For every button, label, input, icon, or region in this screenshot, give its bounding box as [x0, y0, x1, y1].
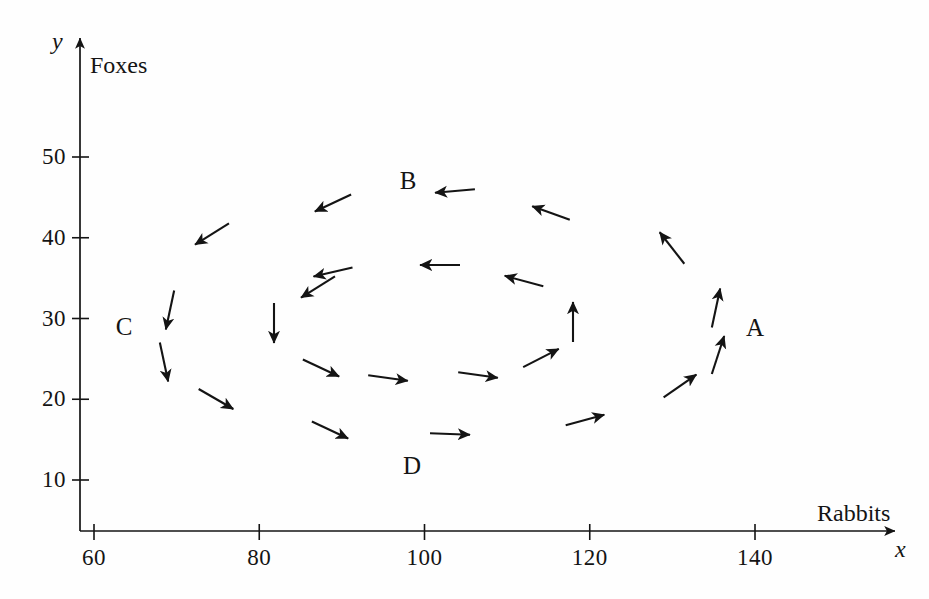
- y-tick-label: 20: [26, 386, 66, 412]
- axis-lines: [80, 38, 895, 531]
- y-axis-name-label: Foxes: [90, 52, 147, 79]
- field-arrow-outer-10: [664, 375, 697, 398]
- direction-field-figure: y Foxes Rabbits x 6080100120140504030201…: [0, 0, 929, 599]
- field-arrow-outer-4: [660, 232, 685, 264]
- field-arrow-outer-7: [160, 342, 168, 381]
- y-tick-label: 40: [26, 225, 66, 251]
- region-label-b: B: [400, 167, 417, 195]
- field-arrow-outer-5: [166, 290, 174, 329]
- field-arrow-inner-14: [314, 268, 353, 277]
- field-arrow-outer-11: [312, 422, 348, 439]
- y-tick-label: 30: [26, 306, 66, 332]
- field-arrow-outer-0: [435, 189, 475, 192]
- field-arrow-outer-3: [195, 223, 229, 244]
- y-tick-label: 10: [26, 467, 66, 493]
- field-arrow-inner-20: [303, 360, 339, 377]
- field-arrow-outer-2: [532, 206, 570, 220]
- field-arrow-inner-21: [368, 375, 408, 381]
- region-label-d: D: [403, 452, 421, 480]
- y-axis-variable-label: y: [52, 28, 63, 55]
- field-arrow-outer-1: [315, 195, 351, 212]
- field-arrow-outer-13: [566, 415, 605, 425]
- field-arrow-outer-6: [712, 288, 720, 327]
- x-tick-label: 80: [247, 545, 271, 571]
- x-axis-name-label: Rabbits: [817, 500, 890, 527]
- y-tick-label: 50: [26, 144, 66, 170]
- field-arrow-outer-12: [430, 433, 470, 434]
- field-arrow-inner-17: [301, 276, 335, 297]
- vector-field: [160, 189, 724, 438]
- x-axis-variable-label: x: [895, 536, 906, 563]
- region-label-c: C: [116, 313, 133, 341]
- x-tick-label: 60: [82, 545, 106, 571]
- region-label-a: A: [746, 314, 764, 342]
- x-axis-ticks: [94, 524, 755, 540]
- field-arrow-inner-23: [523, 349, 559, 367]
- field-arrow-inner-22: [458, 372, 498, 378]
- field-arrow-inner-16: [505, 276, 544, 286]
- x-tick-label: 100: [407, 545, 443, 571]
- plot-canvas: [0, 0, 929, 599]
- x-tick-label: 140: [737, 545, 773, 571]
- x-tick-label: 120: [572, 545, 608, 571]
- field-arrow-outer-8: [712, 336, 724, 374]
- field-arrow-outer-9: [199, 389, 234, 409]
